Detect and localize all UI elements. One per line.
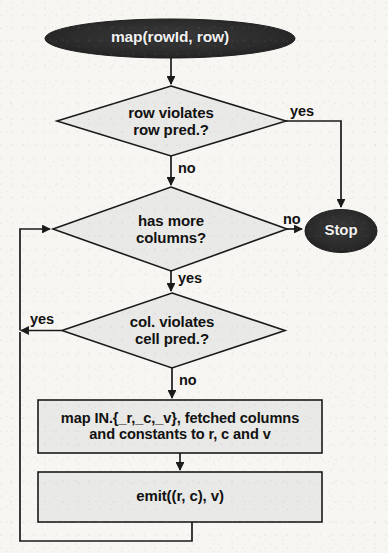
node-map-columns-shape — [38, 400, 322, 453]
flowchart-canvas — [0, 0, 388, 553]
node-emit-shape — [38, 472, 322, 522]
edge-row-pred-yes — [286, 121, 341, 207]
node-cell-pred-shape — [62, 293, 285, 368]
node-start-shape — [45, 19, 295, 58]
flowchart-diagram: map(rowId, row) row violates row pred.? … — [0, 0, 388, 553]
node-has-more-columns-shape — [53, 187, 287, 271]
node-stop-shape — [305, 210, 377, 253]
node-row-pred-shape — [57, 86, 286, 156]
edge-left-rail-riser — [20, 229, 50, 331]
